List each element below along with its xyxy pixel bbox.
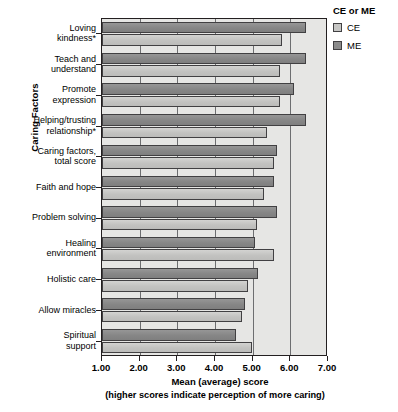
bar-ce-0 xyxy=(102,34,282,46)
legend: CE or ME CEME xyxy=(333,5,395,58)
bar-me-1 xyxy=(102,53,306,65)
bar-ce-2 xyxy=(102,96,280,108)
bar-me-0 xyxy=(102,22,306,34)
category-label-5: Faith and hope xyxy=(8,182,96,193)
category-label-4: Caring factors, total score xyxy=(8,146,96,167)
x-tick-label-5.00: 5.00 xyxy=(232,362,272,373)
bar-ce-9 xyxy=(102,311,242,323)
x-tick-label-4.00: 4.00 xyxy=(194,362,234,373)
x-axis-title: Mean (average) score xyxy=(60,376,380,388)
gridline-6.00 xyxy=(290,19,291,355)
x-tick-5.00 xyxy=(252,356,253,361)
category-label-3: Helping/trusting relationship* xyxy=(8,115,96,136)
x-tick-6.00 xyxy=(289,356,290,361)
category-label-7: Healing environment xyxy=(8,238,96,259)
x-tick-label-6.00: 6.00 xyxy=(269,362,309,373)
x-tick-2.00 xyxy=(139,356,140,361)
x-tick-4.00 xyxy=(214,356,215,361)
x-tick-7.00 xyxy=(327,356,328,361)
bar-ce-7 xyxy=(102,249,274,261)
bar-me-5 xyxy=(102,176,274,188)
legend-label-ce: CE xyxy=(347,22,360,33)
x-axis-ticks xyxy=(101,356,327,361)
legend-items: CEME xyxy=(333,22,395,51)
bar-me-4 xyxy=(102,145,277,157)
legend-swatch-ce-icon xyxy=(333,23,342,32)
x-tick-label-1.00: 1.00 xyxy=(81,362,121,373)
bar-ce-8 xyxy=(102,280,248,292)
bar-ce-3 xyxy=(102,127,267,139)
y-axis-category-labels: Loving kindness*Teach and understandProm… xyxy=(8,18,96,356)
category-label-2: Promote expression xyxy=(8,84,96,105)
category-label-6: Problem solving xyxy=(8,212,96,223)
legend-item-me[interactable]: ME xyxy=(333,40,395,51)
bar-me-9 xyxy=(102,298,245,310)
bar-me-8 xyxy=(102,268,258,280)
bar-me-10 xyxy=(102,329,236,341)
bar-me-6 xyxy=(102,206,277,218)
legend-label-me: ME xyxy=(347,40,361,51)
x-axis-subtitle: (higher scores indicate perception of mo… xyxy=(40,389,390,401)
bar-me-7 xyxy=(102,237,255,249)
legend-title: CE or ME xyxy=(333,5,395,16)
bar-me-3 xyxy=(102,114,306,126)
legend-item-ce[interactable]: CE xyxy=(333,22,395,33)
category-label-0: Loving kindness* xyxy=(8,23,96,44)
bar-ce-10 xyxy=(102,342,252,354)
category-label-9: Allow miracles xyxy=(8,305,96,316)
category-label-10: Spiritual support xyxy=(8,330,96,351)
bar-me-2 xyxy=(102,83,294,95)
x-tick-label-7.00: 7.00 xyxy=(307,362,347,373)
bar-ce-4 xyxy=(102,157,274,169)
x-axis-tick-labels: 1.002.003.004.005.006.007.00 xyxy=(0,362,398,376)
plot-area xyxy=(101,18,327,356)
bar-ce-1 xyxy=(102,65,280,77)
x-tick-3.00 xyxy=(176,356,177,361)
x-tick-label-3.00: 3.00 xyxy=(156,362,196,373)
bar-ce-5 xyxy=(102,188,264,200)
x-tick-label-2.00: 2.00 xyxy=(119,362,159,373)
x-tick-1.00 xyxy=(101,356,102,361)
legend-swatch-me-icon xyxy=(333,41,342,50)
category-label-1: Teach and understand xyxy=(8,54,96,75)
category-label-8: Holistic care xyxy=(8,274,96,285)
bar-chart: Caring Factors Loving kindness*Teach and… xyxy=(0,0,398,412)
bar-ce-6 xyxy=(102,219,257,231)
